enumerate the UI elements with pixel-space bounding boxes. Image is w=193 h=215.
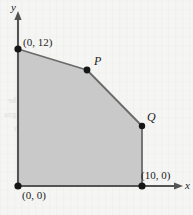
vertex-dot-p (84, 67, 91, 74)
vertex-label-0-0: (0, 0) (22, 190, 46, 201)
vertex-label-p: P (94, 55, 101, 67)
plot-canvas (0, 0, 193, 215)
x-axis-label: x (185, 180, 190, 191)
coordinate-plane-figure: y in the 2 the moo 1O tot eigna X bns ,(… (0, 0, 193, 215)
x-axis-arrowhead (174, 182, 183, 189)
vertex-dot-bottom-right (138, 182, 145, 189)
vertex-label-0-12: (0, 12) (23, 37, 52, 48)
vertex-label-10-0: (10, 0) (141, 170, 170, 181)
vertex-dot-top-left (14, 45, 21, 52)
vertex-label-q: Q (147, 111, 156, 123)
vertex-dot-origin (14, 182, 21, 189)
shaded-region (18, 49, 142, 186)
vertex-dot-q (139, 123, 145, 129)
y-axis-label: y (11, 2, 16, 13)
